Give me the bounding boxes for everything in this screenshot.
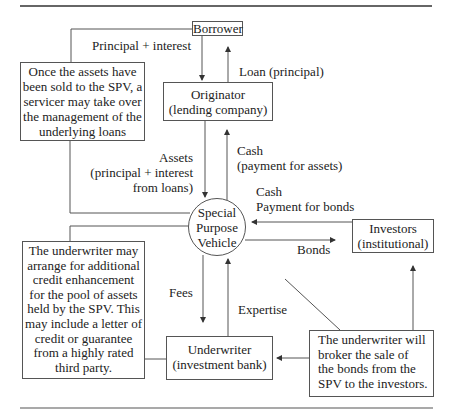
broker-note-line: The underwriter will: [318, 333, 433, 348]
underwriter-subtitle: (investment bank): [167, 357, 272, 372]
credit-note-line: from a highly rated: [23, 346, 144, 361]
servicer-note-line: been sold to the SPV, a: [21, 79, 144, 94]
broker-note-line: the bonds from the: [318, 362, 433, 377]
broker-to-bonds-line: [285, 279, 340, 330]
credit-note-line: held by the SPV. This: [23, 302, 144, 317]
servicer-note-line: the management of the: [21, 109, 144, 124]
borrower-label: Borrower: [193, 22, 242, 35]
investors-title: Investors: [353, 221, 433, 236]
credit-note-line: arrange for additional: [23, 259, 144, 274]
cash-bonds-label: Cash Payment for bonds: [256, 184, 354, 214]
credit-enhancement-to-spv-line: [70, 226, 189, 241]
credit-note-line: may include a letter of: [23, 317, 144, 332]
originator-title: Originator: [164, 87, 272, 102]
borrower-node: Borrower: [192, 21, 243, 36]
spv-node: Special Purpose Vehicle: [188, 198, 246, 256]
cash-bonds-label-line: Cash: [256, 184, 354, 199]
bonds-label: Bonds: [297, 242, 330, 257]
fees-label: Fees: [169, 285, 193, 300]
cash-assets-label-line: (payment for assets): [237, 158, 342, 173]
broker-note-line: broker the sale of: [318, 348, 433, 363]
underwriter-title: Underwriter: [167, 342, 272, 357]
cash-assets-label: Cash (payment for assets): [237, 143, 342, 173]
principal-interest-label: Principal + interest: [92, 38, 191, 53]
loan-label: Loan (principal): [239, 64, 324, 79]
servicer-note-line: Once the assets have: [21, 64, 144, 79]
assets-label: Assets (principal + interest from loans): [73, 150, 193, 195]
broker-note: The underwriter will broker the sale of …: [309, 330, 434, 397]
credit-enhancement-note: The underwriter may arrange for addition…: [22, 241, 145, 379]
originator-subtitle: (lending company): [164, 102, 272, 117]
securitization-diagram: Borrower Originator (lending company) On…: [0, 0, 452, 416]
originator-node: Originator (lending company): [163, 82, 273, 121]
investors-node: Investors (institutional): [352, 219, 434, 253]
broker-note-line: SPV to the investors.: [318, 377, 433, 392]
credit-note-line: third party.: [23, 361, 144, 376]
spv-line: Purpose: [189, 220, 245, 235]
assets-label-line: from loans): [73, 180, 193, 195]
spv-line: Special: [189, 205, 245, 220]
credit-note-line: The underwriter may: [23, 244, 144, 259]
servicer-note-line: servicer may take over: [21, 94, 144, 109]
cash-bonds-label-line: Payment for bonds: [256, 199, 354, 214]
credit-note-line: for the pool of assets: [23, 288, 144, 303]
assets-label-line: (principal + interest: [73, 165, 193, 180]
spv-line: Vehicle: [189, 235, 245, 250]
expertise-label: Expertise: [238, 302, 287, 317]
credit-note-line: credit enhancement: [23, 273, 144, 288]
servicer-note-line: underlying loans: [21, 124, 144, 139]
investors-subtitle: (institutional): [353, 236, 433, 251]
servicer-note: Once the assets have been sold to the SP…: [20, 62, 145, 141]
assets-label-line: Assets: [73, 150, 193, 165]
cash-assets-label-line: Cash: [237, 143, 342, 158]
credit-note-line: credit or guarantee: [23, 332, 144, 347]
underwriter-node: Underwriter (investment bank): [166, 336, 273, 380]
